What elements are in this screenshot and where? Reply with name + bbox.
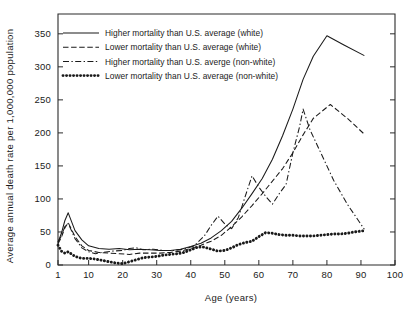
y-axis-title: Average annual death rate per 1,000,000 … <box>4 29 15 264</box>
y-tick-label: 150 <box>35 160 51 171</box>
y-tick-label: 50 <box>40 226 51 237</box>
x-tick-label: 60 <box>253 269 264 280</box>
y-tick-label: 0 <box>46 259 51 270</box>
y-tick-label: 100 <box>35 193 51 204</box>
y-tick-label: 350 <box>35 28 51 39</box>
x-tick-label: 40 <box>185 269 196 280</box>
x-tick-label: 1 <box>55 269 60 280</box>
y-tick-label: 200 <box>35 127 51 138</box>
chart-figure: 050100150200250300350 110203040506070809… <box>0 0 415 309</box>
legend-label: Higher mortality than U.S. averge (non-w… <box>105 57 275 67</box>
mortality-line-chart: 050100150200250300350 110203040506070809… <box>0 0 415 309</box>
x-tick-label: 100 <box>387 269 403 280</box>
legend-label: Lower mortality than U.S. average (white… <box>105 42 261 52</box>
x-tick-label: 50 <box>219 269 230 280</box>
y-tick-label: 300 <box>35 61 51 72</box>
legend-label: Higher mortality than U.S. average (whit… <box>105 28 263 38</box>
x-tick-label: 10 <box>83 269 94 280</box>
y-tick-label: 250 <box>35 94 51 105</box>
x-tick-label: 80 <box>321 269 332 280</box>
x-axis-title: Age (years) <box>205 292 257 303</box>
legend-label: Lower mortality than U.S. average (non-w… <box>105 71 278 81</box>
x-tick-label: 90 <box>355 269 366 280</box>
x-tick-label: 30 <box>151 269 162 280</box>
x-tick-label: 70 <box>287 269 298 280</box>
x-tick-label: 20 <box>117 269 128 280</box>
